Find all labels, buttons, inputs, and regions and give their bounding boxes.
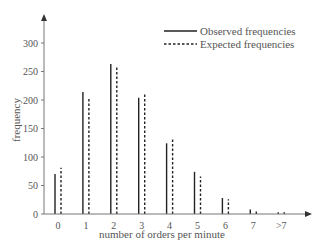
bar-series (55, 64, 284, 214)
y-axis-label: frequency (10, 98, 22, 142)
x-tick-label: 7 (251, 220, 256, 231)
x-axis-label: number of orders per minute (99, 228, 225, 240)
x-tick-label: 0 (56, 220, 61, 231)
y-ticks: 050100150200250300 (23, 38, 44, 220)
frequency-chart: 050100150200250300 01234567>7 number of … (0, 0, 321, 252)
y-tick-label: 100 (23, 152, 38, 163)
y-tick-label: 0 (33, 209, 38, 220)
y-tick-label: 150 (23, 123, 38, 134)
x-tick-label: >7 (276, 220, 287, 231)
x-axis-arrow-icon (305, 211, 312, 217)
legend: Observed frequencies Expected frequencie… (164, 25, 296, 50)
x-tick-label: 1 (83, 220, 88, 231)
legend-expected-label: Expected frequencies (200, 38, 294, 50)
y-tick-label: 250 (23, 66, 38, 77)
y-tick-label: 200 (23, 95, 38, 106)
y-tick-label: 50 (28, 180, 38, 191)
y-axis-arrow-icon (41, 14, 47, 21)
y-tick-label: 300 (23, 38, 38, 49)
legend-observed-label: Observed frequencies (200, 25, 296, 37)
